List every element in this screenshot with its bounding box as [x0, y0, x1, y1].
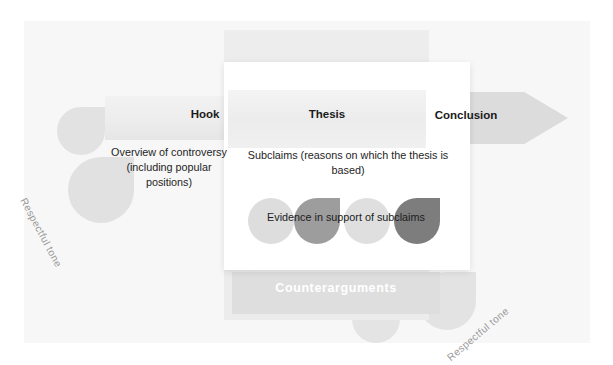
argument-essay-structure-diagram: Counterarguments Hook Thesis Conclusion …	[0, 0, 613, 365]
hook-description: Overview of controversy (including popul…	[108, 145, 230, 190]
conclusion-label: Conclusion	[400, 109, 532, 121]
thesis-label: Thesis	[228, 108, 426, 120]
evidence-description: Evidence in support of subclaims	[246, 210, 446, 225]
thesis-description: Subclaims (reasons on which the thesis i…	[242, 148, 454, 178]
counterarguments-label: Counterarguments	[232, 281, 440, 295]
background-circle-upper-left	[57, 107, 105, 155]
